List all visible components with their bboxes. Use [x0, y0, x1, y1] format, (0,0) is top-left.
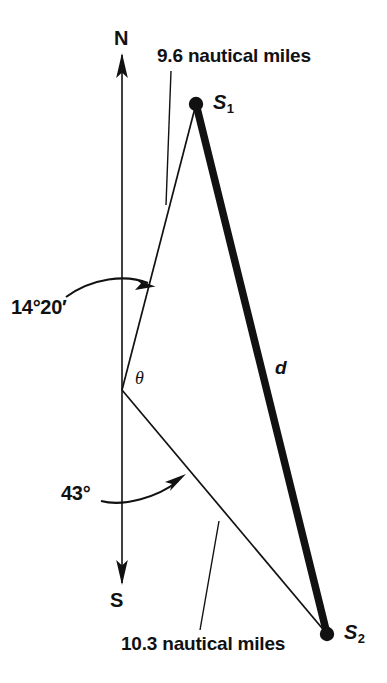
- side-d-thick-line: [196, 104, 327, 634]
- upper-bearing-angle-label: 14°20′: [11, 297, 67, 317]
- bearing-arc-lower: [101, 481, 178, 503]
- side-d-label: d: [275, 358, 287, 377]
- point-label-s1-letter: S: [213, 91, 226, 113]
- point-label-s2-letter: S: [344, 621, 357, 643]
- lower-bearing-angle-label: 43°: [61, 483, 90, 503]
- south-label: S: [110, 590, 123, 610]
- point-label-s2-sub: 2: [358, 631, 365, 646]
- point-label-s2: S2: [344, 622, 365, 645]
- point-label-s1: S1: [213, 92, 234, 115]
- bearing-arc-upper: [66, 278, 148, 297]
- lower-distance-label: 10.3 nautical miles: [121, 634, 285, 653]
- leader-line-upper-distance: [166, 71, 171, 205]
- point-label-s1-sub: 1: [227, 101, 234, 116]
- vertex-angle-theta-label: θ: [135, 369, 144, 387]
- north-label: N: [114, 28, 128, 48]
- leg-origin-to-s1: [122, 104, 196, 390]
- point-marker-s1: [189, 97, 203, 111]
- leader-line-lower-distance: [200, 521, 219, 630]
- navigation-triangle-figure: N S 9.6 nautical miles 10.3 nautical mil…: [0, 0, 387, 683]
- upper-distance-label: 9.6 nautical miles: [157, 46, 311, 65]
- diagram-canvas: [0, 0, 387, 683]
- point-marker-s2: [320, 627, 334, 641]
